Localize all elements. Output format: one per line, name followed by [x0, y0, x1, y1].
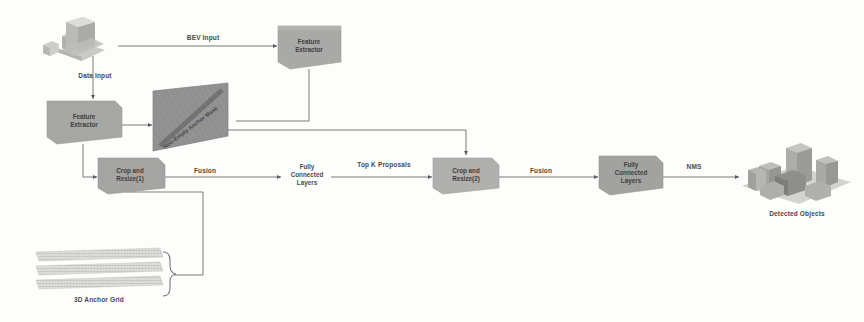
node-anchor-mask-plane[interactable]: [153, 83, 228, 151]
edge-label-top-k-proposals: Top K Proposals: [341, 161, 427, 169]
node-label-feature-extractor-top: Feature Extractor: [279, 38, 339, 54]
fe-left-line1: Feature: [73, 113, 96, 120]
caption-3d-anchor-grid: 3D Anchor Grid: [42, 296, 156, 304]
fc1-line1: Fully: [300, 163, 315, 170]
edge-topfe-down: [236, 69, 309, 121]
anchor-grid-brace: [163, 252, 176, 296]
node-3d-anchor-grid[interactable]: [36, 248, 163, 289]
edge-label-fusion-1: Fusion: [181, 167, 229, 175]
node-label-feature-extractor-left: Feature Extractor: [50, 113, 118, 129]
fe-top-line2: Extractor: [295, 46, 323, 53]
edge-label-fusion-2: Fusion: [517, 167, 565, 175]
crop1-line2: Resize(1): [116, 175, 144, 182]
node-label-crop-and-resize-1: Crop and Resize(1): [99, 167, 161, 183]
node-label-fully-connected-layers-2: Fully Connected Layers: [602, 161, 660, 186]
crop2-line2: Resize(2): [452, 175, 480, 182]
edge-label-bev-input: BEV Input: [168, 34, 238, 42]
edge-anchorgrid-to-crop1: [126, 186, 203, 275]
fe-left-line2: Extractor: [70, 121, 98, 128]
bev-point-cloud-icon: [43, 17, 105, 61]
edge-label-nms: NMS: [674, 163, 714, 171]
fc2-line2: Connected: [615, 169, 648, 176]
edge-plane-to-crop2: [226, 130, 466, 155]
node-label-fully-connected-layers-1: Fully Connected Layers: [279, 163, 335, 188]
crop2-line1: Crop and: [452, 167, 480, 174]
node-label-crop-and-resize-2: Crop and Resize(2): [435, 167, 497, 183]
edge-fe-to-crop1: [83, 144, 97, 177]
fc2-line1: Fully: [624, 161, 639, 168]
crop1-line1: Crop and: [116, 167, 144, 174]
fc1-line3: Layers: [297, 179, 317, 186]
caption-detected-objects: Detected Objects: [742, 210, 852, 218]
fc1-line2: Connected: [291, 171, 324, 178]
detected-objects-icon: [742, 143, 851, 204]
fe-top-line1: Feature: [298, 38, 321, 45]
edge-label-data-input: Data Input: [67, 72, 123, 80]
fc2-line3: Layers: [621, 177, 641, 184]
diagram-canvas: [0, 0, 864, 322]
